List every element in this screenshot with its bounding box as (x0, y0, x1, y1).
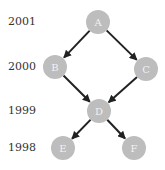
node-B: B (43, 55, 67, 79)
dag-diagram: ABCDEF (0, 0, 165, 170)
edge-A-B (64, 31, 90, 58)
node-label: A (93, 17, 102, 28)
edge-D-E (72, 120, 91, 139)
nodes: ABCDEF (43, 10, 158, 160)
node-E: E (51, 136, 75, 160)
node-A: A (86, 10, 110, 34)
node-label: C (142, 64, 150, 75)
edge-C-D (109, 77, 137, 102)
edge-B-D (63, 75, 89, 101)
node-label: B (51, 62, 58, 73)
node-label: D (95, 106, 103, 117)
node-F: F (122, 136, 146, 160)
edge-A-C (107, 30, 137, 60)
edge-D-F (107, 120, 125, 139)
node-label: E (59, 143, 66, 154)
node-C: C (134, 57, 158, 81)
node-label: F (131, 143, 138, 154)
node-D: D (87, 99, 111, 123)
